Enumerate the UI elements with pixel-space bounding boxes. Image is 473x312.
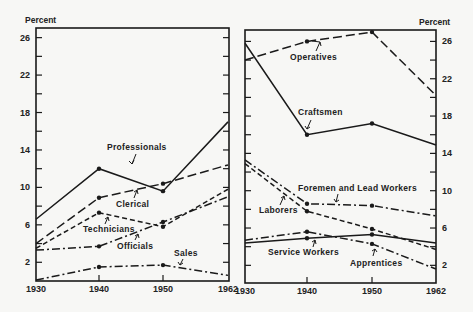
x-tick-label: 1930 — [26, 284, 46, 294]
arrow-technicians-icon — [105, 217, 109, 224]
data-point-marker — [370, 227, 374, 231]
y-tick-label: 26 — [442, 36, 452, 46]
y-tick-label: 10 — [20, 182, 30, 192]
x-tick-label: 1962 — [426, 286, 446, 296]
data-point-marker — [370, 242, 374, 246]
data-point-marker — [370, 232, 374, 236]
left-panel: Percent 262218141062 1930194019501962 — [20, 15, 238, 294]
data-point-marker — [161, 181, 165, 185]
data-point-marker — [97, 244, 101, 248]
label-clerical: Clerical — [116, 199, 149, 209]
data-point-marker — [161, 263, 165, 267]
data-point-marker — [305, 230, 309, 234]
right-plot-frame — [245, 30, 436, 283]
arrow-officials-icon — [135, 234, 139, 240]
x-tick-label: 1930 — [235, 286, 255, 296]
data-point-marker — [305, 202, 309, 206]
label-craftsmen: Craftsmen — [298, 107, 343, 117]
y-tick-label: 14 — [20, 145, 30, 155]
y-tick-label: 6 — [442, 223, 447, 233]
left-y-axis-title: Percent — [25, 15, 56, 25]
arrow-clerical-icon — [134, 190, 138, 198]
label-foremen: Foremen and Lead Workers — [298, 183, 417, 193]
arrow-sales-icon — [178, 259, 183, 265]
data-point-marker — [161, 189, 165, 193]
arrow-professionals-icon — [129, 154, 136, 164]
series-line — [36, 265, 228, 280]
data-point-marker — [97, 210, 101, 214]
x-tick-label: 1940 — [297, 286, 317, 296]
y-tick-label: 18 — [20, 108, 30, 118]
data-point-marker — [305, 39, 309, 43]
x-tick-label: 1950 — [362, 286, 382, 296]
label-technicians: Technicians — [83, 224, 135, 234]
label-apprentices: Apprentices — [350, 258, 402, 268]
occupation-trend-chart: Percent 262218141062 1930194019501962 Pe… — [0, 0, 473, 312]
y-tick-label: 6 — [25, 220, 30, 230]
right-series — [245, 30, 436, 269]
data-point-marker — [370, 30, 374, 34]
arrow-apprentices-icon — [372, 249, 377, 256]
label-officials: Officials — [117, 241, 153, 251]
data-point-marker — [305, 236, 309, 240]
data-point-marker — [97, 195, 101, 199]
data-point-marker — [305, 133, 309, 137]
arrow-operatives-icon — [312, 41, 321, 51]
data-point-marker — [305, 209, 309, 213]
y-tick-label: 18 — [442, 111, 452, 121]
label-service-workers: Service Workers — [268, 247, 339, 257]
right-y-axis-title: Percent — [419, 17, 450, 27]
arrow-craftsmen-icon — [305, 120, 311, 129]
arrow-foremen-icon — [334, 194, 339, 202]
right-x-ticks: 1930194019501962 — [235, 277, 446, 296]
data-point-marker — [97, 265, 101, 269]
y-tick-label: 22 — [442, 74, 452, 84]
data-point-marker — [370, 203, 374, 207]
label-professionals: Professionals — [107, 142, 167, 152]
x-tick-label: 1940 — [89, 284, 109, 294]
arrow-service-workers-icon — [312, 240, 316, 247]
x-tick-label: 1950 — [153, 284, 173, 294]
series-line — [245, 43, 436, 145]
data-point-marker — [370, 121, 374, 125]
arrow-laborers-icon — [280, 196, 285, 205]
y-tick-label: 14 — [442, 148, 452, 158]
y-tick-label: 26 — [20, 33, 30, 43]
y-tick-label: 10 — [442, 186, 452, 196]
label-laborers: Laborers — [259, 205, 298, 215]
y-tick-label: 22 — [20, 70, 30, 80]
data-point-marker — [161, 220, 165, 224]
y-tick-label: 2 — [442, 260, 447, 270]
data-point-marker — [97, 166, 101, 170]
y-tick-label: 2 — [25, 257, 30, 267]
label-operatives: Operatives — [290, 52, 337, 62]
label-sales: Sales — [174, 248, 198, 258]
left-x-ticks: 1930194019501962 — [26, 275, 238, 294]
data-point-marker — [161, 225, 165, 229]
